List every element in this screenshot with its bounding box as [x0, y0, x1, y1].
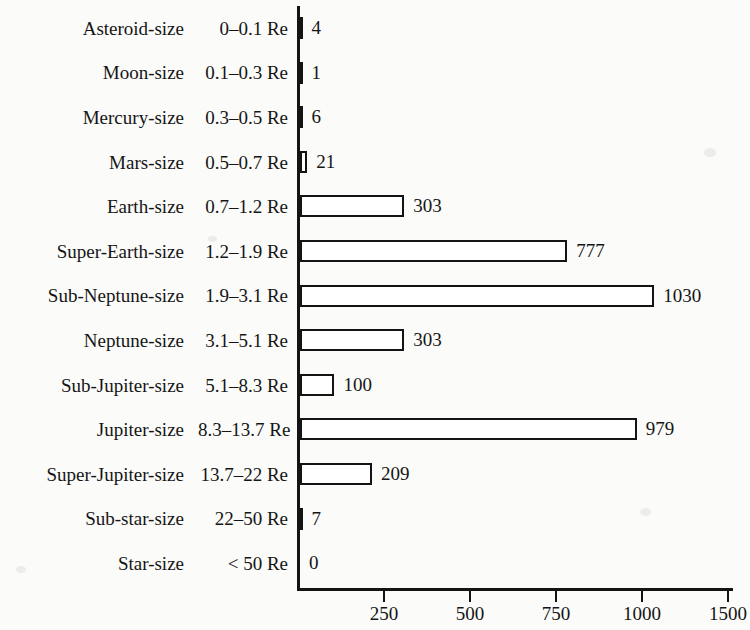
- bar-row: 1030: [300, 274, 750, 319]
- category-label-row: Sub-Jupiter-size5.1–8.3 Re: [0, 363, 297, 408]
- bar-value-label: 209: [381, 463, 410, 485]
- bar-row: 7: [300, 497, 750, 542]
- bar-row: 4: [300, 6, 750, 51]
- category-radius-range: 5.1–8.3 Re: [198, 376, 288, 395]
- category-name: Earth-size: [107, 197, 184, 216]
- category-label-row: Sub-star-size22–50 Re: [0, 497, 297, 542]
- x-axis-tick-mark: [727, 591, 729, 602]
- category-name: Super-Jupiter-size: [47, 465, 184, 484]
- bar[interactable]: [300, 151, 307, 173]
- bar[interactable]: [300, 374, 334, 396]
- bar-value-label: 303: [413, 195, 442, 217]
- bar-row: 303: [300, 184, 750, 229]
- category-name: Mercury-size: [83, 108, 184, 127]
- category-label-row: Mercury-size0.3–0.5 Re: [0, 95, 297, 140]
- bar[interactable]: [300, 240, 567, 262]
- category-name: Star-size: [118, 554, 184, 573]
- category-name: Mars-size: [109, 153, 184, 172]
- category-label-row: Earth-size0.7–1.2 Re: [0, 184, 297, 229]
- x-axis-tick-label: 1000: [623, 604, 661, 623]
- x-axis-tick-label: 250: [370, 604, 399, 623]
- x-axis-tick-label: 750: [542, 604, 571, 623]
- x-axis-tick-mark: [383, 591, 385, 602]
- bar-value-label: 1030: [663, 285, 701, 307]
- category-name: Sub-Jupiter-size: [61, 376, 184, 395]
- bar-value-label: 21: [316, 151, 335, 173]
- x-axis-tick-mark: [469, 591, 471, 602]
- category-radius-range: 22–50 Re: [198, 509, 288, 528]
- category-radius-range: 0.3–0.5 Re: [198, 108, 288, 127]
- bar[interactable]: [300, 463, 372, 485]
- bar-row: 100: [300, 363, 750, 408]
- bar-row: 209: [300, 452, 750, 497]
- category-label-row: Super-Jupiter-size13.7–22 Re: [0, 452, 297, 497]
- bar[interactable]: [300, 195, 404, 217]
- category-label-row: Moon-size0.1–0.3 Re: [0, 51, 297, 96]
- category-label-row: Asteroid-size0–0.1 Re: [0, 6, 297, 51]
- category-radius-range: 0–0.1 Re: [198, 19, 288, 38]
- x-axis-tick-label: 500: [456, 604, 485, 623]
- category-name: Super-Earth-size: [57, 242, 184, 261]
- bar-value-label: 777: [576, 240, 605, 262]
- category-label-row: Jupiter-size8.3–13.7 Re: [0, 407, 297, 452]
- category-radius-range: 3.1–5.1 Re: [198, 331, 288, 350]
- bar[interactable]: [300, 106, 303, 128]
- bar-value-label: 4: [312, 17, 322, 39]
- category-label-row: Sub-Neptune-size1.9–3.1 Re: [0, 274, 297, 319]
- x-axis-tick-label: 1500: [709, 604, 747, 623]
- category-radius-range: < 50 Re: [198, 554, 288, 573]
- x-axis-ticks: 25050075010001500: [297, 591, 750, 630]
- category-label-row: Star-size< 50 Re: [0, 541, 297, 586]
- bar[interactable]: [300, 285, 654, 307]
- category-name: Sub-star-size: [85, 509, 184, 528]
- bar[interactable]: [300, 508, 303, 530]
- category-name: Sub-Neptune-size: [48, 286, 184, 305]
- category-name: Asteroid-size: [83, 19, 184, 38]
- category-label-row: Neptune-size3.1–5.1 Re: [0, 318, 297, 363]
- bar-row: 6: [300, 95, 750, 140]
- bar-series: 41621303777103030310097920970: [300, 0, 750, 590]
- category-radius-range: 13.7–22 Re: [198, 465, 288, 484]
- category-radius-range: 8.3–13.7 Re: [198, 420, 288, 439]
- category-radius-range: 1.9–3.1 Re: [198, 286, 288, 305]
- category-radius-range: 0.1–0.3 Re: [198, 63, 288, 82]
- bar-chart-figure: Asteroid-size0–0.1 ReMoon-size0.1–0.3 Re…: [0, 0, 750, 630]
- bar-value-label: 7: [312, 508, 322, 530]
- bar-row: 1: [300, 51, 750, 96]
- bar-value-label: 303: [413, 329, 442, 351]
- bar[interactable]: [300, 329, 404, 351]
- category-radius-range: 0.5–0.7 Re: [198, 153, 288, 172]
- x-axis-tick-mark: [555, 591, 557, 602]
- category-name: Neptune-size: [84, 331, 184, 350]
- bar-row: 979: [300, 407, 750, 452]
- bar-value-label: 1: [312, 62, 322, 84]
- bar-value-label: 979: [646, 418, 675, 440]
- x-axis-tick-mark: [641, 591, 643, 602]
- bar[interactable]: [300, 17, 303, 39]
- category-radius-range: 0.7–1.2 Re: [198, 197, 288, 216]
- bar-value-label: 0: [309, 552, 319, 574]
- category-radius-range: 1.2–1.9 Re: [198, 242, 288, 261]
- bar-value-label: 6: [312, 106, 322, 128]
- bar-row: 777: [300, 229, 750, 274]
- bar-value-label: 100: [343, 374, 372, 396]
- category-label-row: Super-Earth-size1.2–1.9 Re: [0, 229, 297, 274]
- bar-row: 21: [300, 140, 750, 185]
- category-label-row: Mars-size0.5–0.7 Re: [0, 140, 297, 185]
- bar-row: 0: [300, 541, 750, 586]
- plot-area: 41621303777103030310097920970 2505007501…: [297, 0, 750, 630]
- bar[interactable]: [300, 62, 303, 84]
- bar-row: 303: [300, 318, 750, 363]
- category-name: Moon-size: [103, 63, 184, 82]
- category-name: Jupiter-size: [97, 420, 184, 439]
- bar[interactable]: [300, 418, 637, 440]
